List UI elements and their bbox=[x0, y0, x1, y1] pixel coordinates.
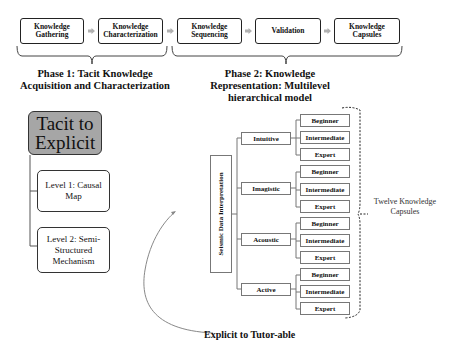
category-acoustic: Acoustic bbox=[241, 233, 291, 246]
explicit-to-tutorable-label: Explicit to Tutor-able bbox=[204, 329, 295, 340]
level-expert: Expert bbox=[300, 148, 350, 161]
twelve-capsules-note: Twelve Knowledge Capsules bbox=[365, 197, 445, 217]
level-beginner: Beginner bbox=[300, 165, 350, 178]
level-intermediate: Intermediate bbox=[300, 131, 350, 144]
category-imagistic: Imagistic bbox=[241, 182, 291, 195]
level-beginner: Beginner bbox=[300, 268, 350, 281]
seismic-data-interpretation-box: Seismic Data Interpretation bbox=[210, 155, 232, 273]
level-intermediate: Intermediate bbox=[300, 285, 350, 298]
level-intermediate: Intermediate bbox=[300, 183, 350, 196]
level-beginner: Beginner bbox=[300, 114, 350, 127]
level-expert: Expert bbox=[300, 200, 350, 213]
root-label: Seismic Data Interpretation bbox=[217, 172, 225, 255]
level-expert: Expert bbox=[300, 251, 350, 264]
category-active: Active bbox=[241, 283, 291, 296]
level-beginner: Beginner bbox=[300, 217, 350, 230]
level-expert: Expert bbox=[300, 302, 350, 315]
level-intermediate: Intermediate bbox=[300, 234, 350, 247]
category-intuitive: Intuitive bbox=[241, 132, 291, 145]
